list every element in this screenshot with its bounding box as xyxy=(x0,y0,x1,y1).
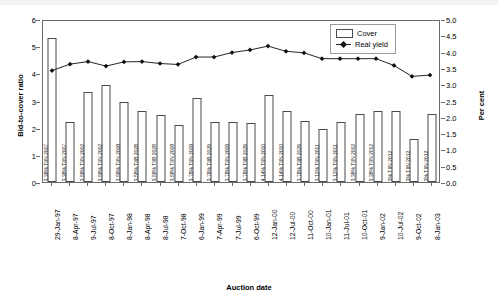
x-axis-tick-label: 8-Oct-97 xyxy=(108,214,115,240)
y-axis-left-tick-mark xyxy=(36,47,40,48)
x-axis-tick-mark xyxy=(196,183,197,186)
x-axis-tick-mark xyxy=(286,183,287,186)
x-axis-tick-label: 7-Jul-99 xyxy=(235,215,242,240)
real-yield-marker xyxy=(428,73,433,78)
x-axis-tick-mark xyxy=(268,183,269,186)
y-axis-right-tick: 1.0 xyxy=(446,146,456,155)
real-yield-marker xyxy=(86,59,91,64)
y-axis-right-tick-mark xyxy=(441,118,445,119)
x-axis-tick-label: 12-Jan-00 xyxy=(271,209,278,240)
y-axis-right-tick: 5.0 xyxy=(446,16,456,25)
real-yield-marker xyxy=(68,62,73,67)
y-axis-right-tick-mark xyxy=(441,102,445,103)
real-yield-line-icon xyxy=(336,41,351,48)
x-axis-tick-label: 8-Apr-97 xyxy=(72,214,79,240)
real-yield-marker xyxy=(50,68,55,73)
real-yield-marker xyxy=(284,49,289,54)
y-axis-right-tick: 0.5 xyxy=(446,162,456,171)
x-axis-tick-mark xyxy=(322,183,323,186)
x-axis-tick-mark xyxy=(51,183,52,186)
real-yield-marker xyxy=(230,50,235,55)
x-axis-title: Auction date xyxy=(0,283,498,292)
x-axis-tick-mark xyxy=(105,183,106,186)
real-yield-marker xyxy=(374,56,379,61)
x-axis-tick-mark xyxy=(250,183,251,186)
x-axis-tick-mark xyxy=(431,183,432,186)
x-axis-tick-mark xyxy=(359,183,360,186)
y-axis-right-tick-mark xyxy=(441,150,445,151)
real-yield-marker xyxy=(176,62,181,67)
cover-swatch-icon xyxy=(336,29,353,38)
x-axis-tick-mark xyxy=(413,183,414,186)
y-axis-right-tick: 2.0 xyxy=(446,113,456,122)
real-yield-marker xyxy=(356,56,361,61)
y-axis-right-tick: 3.0 xyxy=(446,81,456,90)
x-axis-tick-mark xyxy=(214,183,215,186)
y-axis-right-tick: 4.0 xyxy=(446,48,456,57)
x-axis-tick-label: 12-Jul-00 xyxy=(289,212,296,240)
y-axis-right: 0.00.51.01.52.02.53.03.54.04.55.0 xyxy=(441,20,481,183)
x-axis-tick-label: 8-Jan-03 xyxy=(434,213,441,240)
legend-item-real-yield: Real yield xyxy=(336,39,388,50)
x-axis-tick-label: 11-Jul-01 xyxy=(343,212,350,240)
x-axis-tick-label: 9-Jul-97 xyxy=(90,215,97,240)
y-axis-right-tick-mark xyxy=(441,53,445,54)
real-yield-marker xyxy=(158,61,163,66)
real-yield-marker xyxy=(302,51,307,56)
x-axis-tick-mark xyxy=(395,183,396,186)
x-axis-tick-mark xyxy=(232,183,233,186)
real-yield-marker xyxy=(320,56,325,61)
x-axis-tick-labels: 29-Jan-978-Apr-979-Jul-978-Oct-978-Jan-9… xyxy=(42,186,440,278)
x-axis-tick-label: 29-Jan-97 xyxy=(54,209,61,240)
y-axis-right-tick-mark xyxy=(441,36,445,37)
y-axis-right-tick: 4.5 xyxy=(446,32,456,41)
real-yield-marker xyxy=(248,48,253,53)
x-axis-tick-mark xyxy=(69,183,70,186)
y-axis-right-title: Per cent xyxy=(477,60,486,152)
x-axis-tick-label: 8-Jul-98 xyxy=(162,215,169,240)
x-axis-tick-mark xyxy=(340,183,341,186)
legend-label-cover: Cover xyxy=(357,29,377,38)
x-axis-tick-label: 8-Jan-98 xyxy=(126,213,133,240)
x-axis-tick-mark xyxy=(141,183,142,186)
x-axis-tick-mark xyxy=(123,183,124,186)
real-yield-marker xyxy=(122,60,127,65)
real-yield-marker xyxy=(194,55,199,60)
y-axis-right-tick-mark xyxy=(441,183,445,184)
y-axis-left-title: Bid-to-cover ratio xyxy=(16,60,25,152)
x-axis-tick-label: 6-Jan-99 xyxy=(198,213,205,240)
y-axis-right-tick: 1.5 xyxy=(446,130,456,139)
real-yield-marker xyxy=(410,74,415,79)
real-yield-marker xyxy=(392,63,397,68)
x-axis-tick-mark xyxy=(178,183,179,186)
x-axis-tick-label: 9-Jan-02 xyxy=(379,213,386,240)
real-yield-marker xyxy=(140,59,145,64)
x-axis-tick-label: 10-Oct-01 xyxy=(361,210,368,240)
x-axis-tick-label: 10-Jan-01 xyxy=(325,209,332,240)
x-axis-tick-label: 9-Oct-02 xyxy=(415,214,422,240)
y-axis-left-tick-mark xyxy=(36,183,40,184)
y-axis-left-tick-mark xyxy=(36,74,40,75)
x-axis-tick-label: 6-Oct-99 xyxy=(253,214,260,240)
y-axis-right-tick-mark xyxy=(441,167,445,168)
x-axis-tick-mark xyxy=(87,183,88,186)
chart-figure: 0123456 Bid-to-cover ratio 0.00.51.01.52… xyxy=(0,0,498,301)
y-axis-left-tick-mark xyxy=(36,20,40,21)
real-yield-marker xyxy=(266,44,271,49)
y-axis-right-tick: 3.5 xyxy=(446,64,456,73)
real-yield-marker xyxy=(338,56,343,61)
y-axis-right-tick-mark xyxy=(441,85,445,86)
y-axis-right-tick-mark xyxy=(441,69,445,70)
x-axis-tick-label: 7-Oct-98 xyxy=(180,214,187,240)
y-axis-right-tick: 2.5 xyxy=(446,97,456,106)
y-axis-left-tick-mark xyxy=(36,129,40,130)
legend-item-cover: Cover xyxy=(336,28,388,39)
x-axis-tick-mark xyxy=(160,183,161,186)
y-axis-right-tick: 0.0 xyxy=(446,179,456,188)
x-axis-tick-label: 8-Apr-98 xyxy=(144,214,151,240)
top-band xyxy=(0,0,498,5)
chart-legend: Cover Real yield xyxy=(330,24,396,54)
real-yield-marker xyxy=(212,55,217,60)
y-axis-left-tick-mark xyxy=(36,156,40,157)
y-axis-left-tick-mark xyxy=(36,102,40,103)
